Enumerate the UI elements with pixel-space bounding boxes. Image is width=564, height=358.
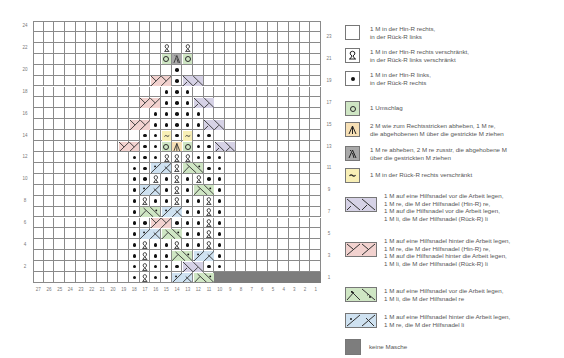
purl-dot bbox=[186, 177, 190, 181]
grid-cell bbox=[65, 261, 76, 272]
column-label: 8 bbox=[236, 287, 247, 292]
row-label-right: 3 bbox=[322, 253, 336, 258]
column-label: 24 bbox=[65, 287, 76, 292]
twisted-knit-icon bbox=[204, 207, 214, 217]
grid-cell bbox=[65, 76, 76, 87]
grid-cell bbox=[97, 141, 108, 152]
grid-cell bbox=[44, 152, 55, 163]
grid-cell bbox=[300, 119, 311, 130]
grid-cell bbox=[225, 97, 236, 108]
purl-dot bbox=[175, 90, 179, 94]
purl-dot bbox=[143, 177, 147, 181]
grid-cell bbox=[257, 207, 268, 218]
purl-dot-icon bbox=[151, 262, 161, 272]
grid-cell bbox=[236, 185, 247, 196]
grid-cell bbox=[108, 97, 119, 108]
row-label-right: 11 bbox=[322, 165, 336, 170]
no-stitch-cell bbox=[289, 272, 300, 283]
grid-cell bbox=[44, 119, 55, 130]
purl-dot bbox=[133, 167, 137, 171]
grid-cell bbox=[76, 21, 87, 32]
purl-dot bbox=[186, 199, 190, 203]
grid-cell bbox=[300, 185, 311, 196]
grid-cell bbox=[97, 76, 108, 87]
grid-cell bbox=[204, 54, 215, 65]
grid-cell bbox=[214, 43, 225, 54]
legend-text: 1 M auf eine Hilfsnadel vor die Arbeit l… bbox=[384, 192, 503, 222]
grid-cell bbox=[300, 261, 311, 272]
grid-cell bbox=[33, 32, 44, 43]
grid-cell bbox=[97, 32, 108, 43]
purl-dot-icon bbox=[194, 207, 204, 217]
grid-cell bbox=[97, 21, 108, 32]
twisted-knit-icon bbox=[183, 153, 193, 163]
grid-cell bbox=[86, 250, 97, 261]
purl-dot-icon bbox=[204, 131, 214, 141]
row-label-left: 4 bbox=[18, 242, 32, 247]
grid-cell bbox=[225, 163, 236, 174]
grid-cell bbox=[44, 130, 55, 141]
column-label: 10 bbox=[214, 287, 225, 292]
dec-orange-icon bbox=[172, 142, 182, 152]
grid-cell bbox=[236, 76, 247, 87]
grid-cell bbox=[65, 272, 76, 283]
grid-cell bbox=[76, 261, 87, 272]
grid-cell bbox=[118, 163, 129, 174]
purl-dot bbox=[218, 188, 222, 192]
grid-cell bbox=[225, 130, 236, 141]
grid-cell bbox=[54, 196, 65, 207]
no-stitch-cell bbox=[278, 272, 289, 283]
grid-cell bbox=[172, 32, 183, 43]
grid-cell bbox=[278, 250, 289, 261]
grid-cell bbox=[44, 239, 55, 250]
twisted-knit-icon bbox=[345, 48, 360, 63]
grid-cell bbox=[65, 21, 76, 32]
grid-cell bbox=[236, 130, 247, 141]
purl-dot bbox=[197, 221, 201, 225]
grid-cell bbox=[182, 65, 193, 76]
grid-cell bbox=[300, 141, 311, 152]
column-label: 21 bbox=[97, 287, 108, 292]
grid-cell bbox=[33, 228, 44, 239]
cross-green-icon bbox=[194, 185, 214, 195]
grid-cell bbox=[108, 119, 119, 130]
grid-cell bbox=[204, 32, 215, 43]
purl-dot bbox=[197, 134, 201, 138]
grid-cell bbox=[300, 239, 311, 250]
column-label: 7 bbox=[246, 287, 257, 292]
grid-cell bbox=[140, 65, 151, 76]
grid-cell bbox=[300, 196, 311, 207]
legend-text: 1 M in der Hin-R rechts, in der Rück-R l… bbox=[370, 25, 435, 40]
grid-cell bbox=[300, 228, 311, 239]
grid-cell bbox=[257, 97, 268, 108]
grid-cell bbox=[268, 261, 279, 272]
purl-dot bbox=[154, 243, 158, 247]
grid-cell bbox=[236, 87, 247, 98]
grid-cell bbox=[140, 32, 151, 43]
grid-cell bbox=[44, 163, 55, 174]
grid-cell bbox=[236, 54, 247, 65]
grid-cell bbox=[193, 32, 204, 43]
grid-cell bbox=[300, 130, 311, 141]
purl-dot-icon bbox=[162, 240, 172, 250]
cross-purple-icon bbox=[183, 262, 203, 272]
legend-item-cross-blue: 1 M auf eine Hilfsnadel hinter die Arbei… bbox=[345, 313, 510, 328]
purl-dot-icon bbox=[162, 251, 172, 261]
grid-cell bbox=[65, 130, 76, 141]
grid-cell bbox=[129, 130, 140, 141]
purl-dot bbox=[186, 232, 190, 236]
grid-cell bbox=[310, 174, 321, 185]
grid-cell bbox=[54, 76, 65, 87]
twisted-knit-icon bbox=[183, 43, 193, 53]
grid-cell bbox=[300, 207, 311, 218]
purl-dot bbox=[165, 276, 169, 280]
purl-dot-icon bbox=[183, 120, 193, 130]
grid-cell bbox=[268, 21, 279, 32]
purl-dot-icon bbox=[130, 218, 140, 228]
purl-dot bbox=[133, 199, 137, 203]
grid-cell bbox=[268, 141, 279, 152]
grid-cell bbox=[108, 239, 119, 250]
grid-cell bbox=[278, 207, 289, 218]
purl-dot bbox=[165, 199, 169, 203]
grid-cell bbox=[289, 250, 300, 261]
